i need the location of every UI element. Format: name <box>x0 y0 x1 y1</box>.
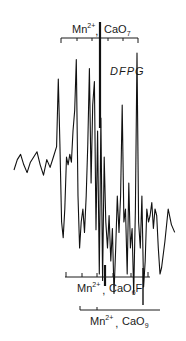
bracket-cao9-site: CaO9 <box>122 315 149 329</box>
spectrum-figure: Mn2+, CaO7 DFPG Mn2+, CaO6F Mn2+, CaO9 <box>0 0 186 341</box>
bracket-cao9: Mn2+, CaO9 <box>80 306 160 329</box>
bracket-cao7-site: CaO7 <box>104 23 131 37</box>
bracket-cao6f: Mn2+, CaO6F <box>65 272 150 296</box>
bracket-cao7-label: Mn2+, <box>72 22 98 37</box>
bracket-cao6f-label: Mn2+, <box>77 281 105 296</box>
sample-label-dfpg: DFPG <box>110 65 145 77</box>
bracket-cao9-label: Mn2+, <box>90 314 118 329</box>
trace-layer <box>14 0 178 294</box>
spectrum-trace <box>14 53 175 294</box>
bracket-cao6f-site: CaO6F <box>109 282 143 296</box>
